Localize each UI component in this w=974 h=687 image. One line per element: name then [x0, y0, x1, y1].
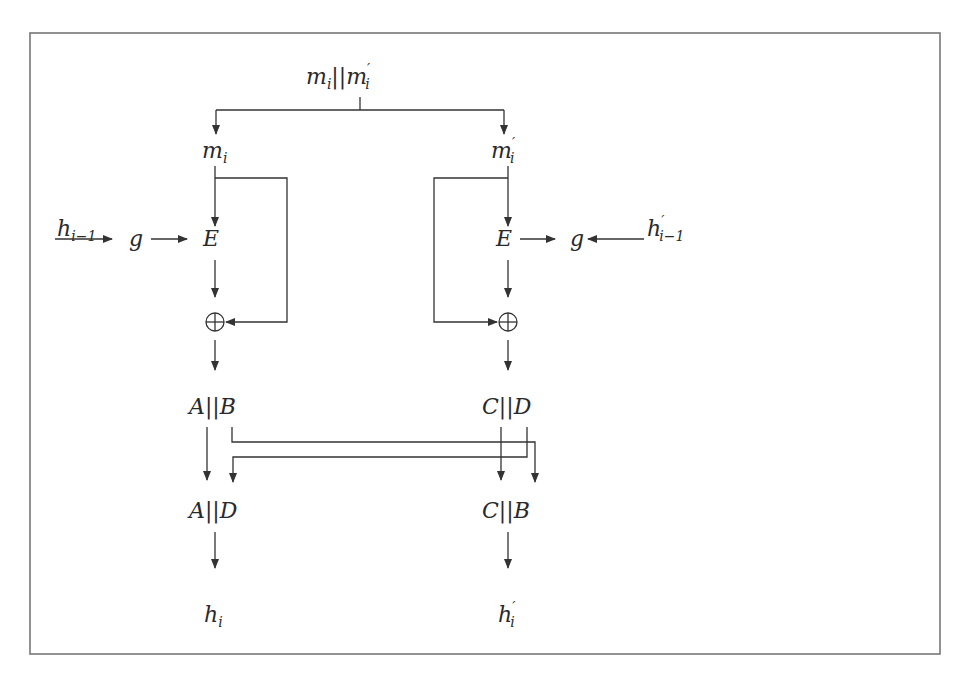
label-c-d: C||D	[482, 394, 532, 420]
label-h-i: hi	[204, 602, 223, 630]
arrow-b-to-cb	[232, 427, 535, 482]
label-a-d: A||D	[187, 498, 238, 524]
label-h-prev-right: h′i−1	[647, 213, 684, 244]
label-c-b: C||B	[482, 498, 530, 524]
diagram-frame	[30, 33, 940, 654]
label-e-left: E	[202, 226, 219, 251]
arrow-feedforward-left	[215, 178, 287, 322]
label-m-i: mi	[202, 138, 227, 166]
xor-icon-right	[499, 313, 517, 331]
xor-icon-left	[206, 313, 224, 331]
label-h-prime-i: h′i	[498, 599, 516, 630]
diagram-canvas: mi||m′i mi hi−1 g E A||B m′i E g h′i−1 C…	[0, 0, 974, 687]
arrow-d-to-ad	[233, 427, 527, 482]
label-e-right: E	[495, 226, 512, 251]
label-a-b: A||B	[187, 394, 236, 420]
label-g-right: g	[570, 226, 584, 251]
label-m-prime-i: m′i	[491, 135, 516, 166]
label-top-input: mi||m′i	[306, 61, 371, 92]
split-top-connector	[216, 97, 504, 134]
label-h-prev-left: hi−1	[57, 216, 96, 244]
label-g-left: g	[129, 226, 143, 251]
